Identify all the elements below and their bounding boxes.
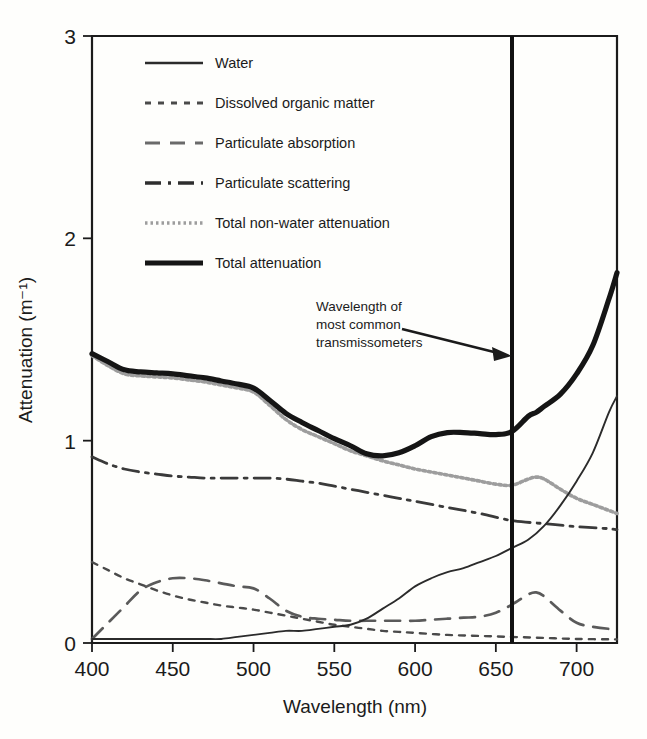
legend-label: Water — [215, 55, 253, 71]
y-axis-title: Attenuation (m⁻¹) — [15, 277, 36, 423]
x-tick-label-400: 400 — [74, 657, 109, 680]
x-tick-label-450: 450 — [155, 657, 190, 680]
y-tick-label-1: 1 — [64, 430, 76, 453]
x-axis-title: Wavelength (nm) — [283, 696, 427, 717]
legend-label: Dissolved organic matter — [215, 95, 375, 111]
y-tick-label-3: 3 — [64, 25, 76, 48]
annotation-line-3: transmissometers — [316, 335, 423, 350]
legend-label: Particulate scattering — [215, 175, 350, 191]
chart-canvas: 400450500550600650700 0123 Wavelength of… — [0, 0, 647, 739]
x-tick-label-650: 650 — [478, 657, 513, 680]
y-tick-label-0: 0 — [64, 632, 76, 655]
x-tick-label-600: 600 — [398, 657, 433, 680]
x-tick-label-700: 700 — [559, 657, 594, 680]
legend-label: Total attenuation — [215, 255, 321, 271]
legend-label: Total non-water attenuation — [215, 215, 390, 231]
legend-label: Particulate absorption — [215, 135, 355, 151]
x-tick-label-500: 500 — [236, 657, 271, 680]
attenuation-spectrum-figure: 400450500550600650700 0123 Wavelength of… — [0, 0, 647, 739]
annotation-line-1: Wavelength of — [316, 299, 402, 314]
annotation-line-2: most common — [316, 317, 401, 332]
x-tick-label-550: 550 — [317, 657, 352, 680]
y-tick-label-2: 2 — [64, 227, 76, 250]
